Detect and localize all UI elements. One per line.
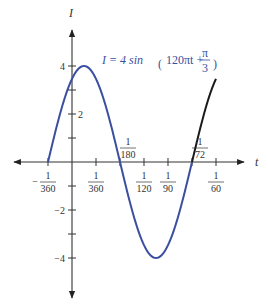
y-tick-label: 2	[78, 109, 83, 120]
svg-text:(: (	[158, 57, 162, 71]
svg-text:1: 1	[94, 170, 99, 181]
svg-text:72: 72	[195, 149, 205, 160]
x-tick-label: 1360−	[32, 170, 56, 194]
svg-text:I = 4 sin: I = 4 sin	[101, 53, 143, 67]
svg-text:1: 1	[141, 170, 146, 181]
y-tick-label: −2	[54, 205, 65, 216]
svg-text:1: 1	[165, 170, 170, 181]
x-tick-label: 1180	[120, 136, 136, 160]
x-tick-label: 1120	[136, 170, 152, 194]
equation-label: I = 4 sin ( 120πt + π 3 )	[101, 46, 217, 75]
svg-text:1: 1	[214, 170, 219, 181]
svg-text:120: 120	[136, 183, 151, 194]
svg-text:90: 90	[163, 183, 173, 194]
x-tick-label: 160	[208, 170, 224, 194]
svg-text:1: 1	[45, 170, 50, 181]
equation-lhs: I = 4 sin	[101, 53, 143, 67]
y-tick-label: −4	[54, 253, 65, 264]
svg-text:1: 1	[126, 136, 131, 147]
svg-text:360: 360	[40, 183, 55, 194]
svg-text:360: 360	[89, 183, 104, 194]
equation-fraction-numerator: π	[202, 46, 208, 60]
svg-text:60: 60	[211, 183, 221, 194]
equation-fraction-denominator: 3	[202, 61, 208, 75]
y-tick-label: 4	[60, 61, 65, 72]
equation-argument: 120πt +	[166, 53, 203, 67]
svg-text:): )	[213, 57, 217, 71]
svg-text:−: −	[32, 176, 38, 187]
x-tick-label: 190	[160, 170, 176, 194]
sine-chart: t I 42−2−4 1360−136011801120190172160 I …	[0, 0, 268, 308]
x-axis-label: t	[255, 155, 259, 169]
x-tick-label: 1360	[88, 170, 104, 194]
svg-text:180: 180	[121, 149, 136, 160]
y-axis-label: I	[68, 6, 74, 20]
